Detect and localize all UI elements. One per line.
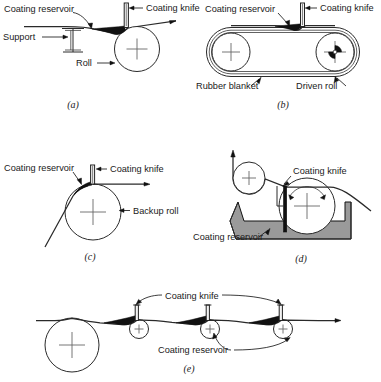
panel-c-backup-roll	[65, 184, 121, 240]
panel-e-caption: (e)	[183, 363, 195, 375]
panel-c-knife-arrowhead	[96, 167, 101, 171]
panel-b-left-roll	[212, 33, 250, 71]
panel-b-driven-arrowhead	[334, 76, 338, 82]
panel-e-knife-arrowhead-right	[276, 299, 281, 304]
panel-a-roll-arrowhead	[110, 61, 115, 65]
panel-b-rubber-blanket-label: Rubber blanket	[196, 81, 259, 91]
panel-d-upper-roll	[233, 162, 265, 194]
panel-a: Coating reservoir Coating knife Support …	[3, 3, 200, 111]
panel-b-caption: (b)	[277, 99, 289, 111]
panel-a-web-arrow	[170, 21, 177, 24]
panel-c-backup-roll-label: Backup roll	[133, 206, 178, 216]
panel-e-main-roll	[45, 318, 99, 372]
panel-d-coating-reservoir-label: Coating reservoir	[193, 232, 263, 242]
panel-b: Coating reservoir Coating knife Rubber b…	[196, 3, 374, 111]
panel-e: Coating knife Coating reservoir (e)	[36, 291, 341, 376]
panel-a-coating-knife	[124, 3, 128, 28]
panel-b-coating-knife-label: Coating knife	[320, 3, 374, 13]
knife-coating-figure: Coating reservoir Coating knife Support …	[0, 0, 381, 382]
panel-e-coating-reservoir-fluid-3	[249, 316, 280, 325]
panel-e-coating-reservoir-fluid-2	[176, 316, 207, 325]
panel-d-caption: (d)	[295, 253, 307, 265]
panel-e-reservoir-leader-2	[234, 339, 289, 350]
panel-a-roll-label: Roll	[76, 58, 92, 68]
panel-e-coating-reservoir-fluid-1	[104, 316, 136, 325]
panel-a-support-arrowhead	[63, 35, 68, 39]
panel-a-knife-arrowhead	[129, 6, 134, 10]
panel-a-coating-reservoir-label: Coating reservoir	[4, 4, 74, 14]
panel-d: Coating knife Coating reservoir (d)	[193, 150, 371, 265]
panel-c: Coating reservoir Coating knife Backup r…	[4, 163, 178, 264]
figure-canvas: Coating reservoir Coating knife Support …	[0, 0, 381, 382]
panel-a-support	[62, 29, 84, 53]
panel-b-driven-roll	[316, 33, 354, 71]
panel-d-coating-knife-label: Coating knife	[293, 166, 347, 176]
panel-b-coating-knife	[301, 3, 305, 27]
panel-d-web-arrow	[231, 150, 235, 157]
panel-b-driven-leader	[337, 78, 346, 86]
panel-e-coating-reservoir-label: Coating reservoir	[158, 345, 228, 355]
panel-c-coating-knife	[91, 165, 95, 184]
panel-c-caption: (c)	[84, 251, 96, 263]
panel-b-coating-reservoir-label: Coating reservoir	[205, 4, 275, 14]
panel-e-web-arrow	[335, 319, 341, 323]
panel-c-coating-reservoir-label: Coating reservoir	[4, 163, 74, 173]
panel-b-driven-roll-label: Driven roll	[296, 81, 337, 91]
panel-c-web-arrow	[144, 182, 150, 186]
panel-a-reservoir-leader	[73, 13, 91, 27]
panel-e-coating-knife-label: Coating knife	[165, 291, 219, 301]
panel-a-caption: (a)	[67, 99, 79, 111]
panel-b-knife-arrowhead	[305, 6, 310, 10]
panel-a-support-label: Support	[3, 32, 36, 42]
panel-a-coating-knife-label: Coating knife	[146, 3, 200, 13]
panel-c-coating-knife-label: Coating knife	[110, 164, 164, 174]
panel-e-knife-leader-right	[222, 295, 279, 303]
